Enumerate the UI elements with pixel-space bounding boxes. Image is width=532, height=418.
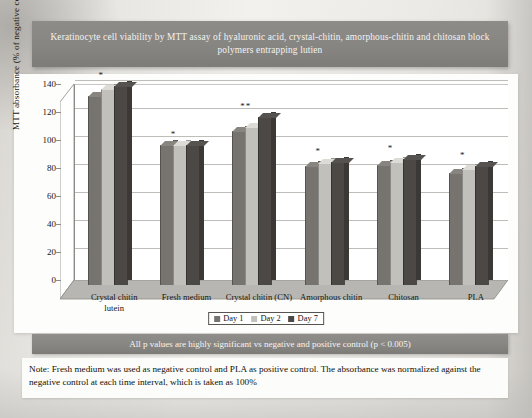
bar-side-face — [488, 161, 493, 280]
bar-day-1 — [377, 165, 390, 285]
y-tick-label: 120 — [43, 107, 57, 117]
bar-side-face — [199, 140, 204, 280]
bar-day-2 — [462, 169, 475, 285]
scanned-page: Keratinocyte cell viability by MTT assay… — [0, 0, 532, 418]
bar-day-7 — [475, 166, 488, 285]
bar-front-face — [232, 131, 246, 285]
bar-day-2 — [101, 89, 114, 285]
category-label: Chitosan — [388, 292, 419, 303]
bar-day-7 — [258, 117, 271, 285]
note-box: Note: Fresh medium was used as negative … — [22, 358, 508, 398]
legend-item: Day 1 — [214, 314, 243, 323]
bar-day-7 — [331, 162, 344, 285]
bar-front-face — [403, 159, 417, 285]
bar-day-2 — [390, 162, 403, 285]
plot-area: 020406080100120140 ******* — [60, 84, 508, 306]
bar-front-face — [101, 89, 115, 285]
bar-front-face — [305, 166, 319, 285]
y-tick-label: 140 — [43, 79, 57, 89]
bar-front-face — [390, 162, 404, 285]
bar-front-face — [462, 169, 476, 285]
bar-day-1 — [88, 96, 101, 285]
category-label-line: Crystal chitin (CN) — [226, 292, 292, 303]
bar-side-face — [344, 157, 349, 280]
bar-day-1 — [160, 145, 173, 285]
category-label: Crystal chitin (CN) — [226, 292, 292, 303]
bar-group: * — [88, 89, 142, 285]
category-label-line: lutein — [91, 303, 138, 314]
bar-front-face — [475, 166, 489, 285]
note-text: Note: Fresh medium was used as negative … — [29, 364, 481, 387]
bar-day-1 — [232, 131, 245, 285]
significance-marker: * — [460, 151, 466, 159]
y-tick-label: 100 — [43, 135, 57, 145]
bar-front-face — [331, 162, 345, 285]
bar-day-7 — [186, 145, 199, 285]
figure-title: Keratinocyte cell viability by MTT assay… — [32, 31, 508, 57]
significance-marker: ** — [240, 102, 251, 110]
category-label-line: Crystal chitin — [91, 292, 138, 303]
significance-marker: * — [98, 71, 104, 79]
bar-side-face — [271, 112, 276, 280]
significance-marker: * — [171, 130, 177, 138]
bar-top-face — [403, 155, 426, 160]
legend-swatch — [251, 316, 257, 322]
bars-layer: ******* — [60, 84, 508, 306]
bar-day-2 — [245, 127, 258, 285]
bar-day-2 — [318, 163, 331, 285]
bar-top-face — [258, 113, 281, 118]
bar-top-face — [475, 162, 498, 167]
bar-front-face — [114, 86, 128, 285]
p-value-text: All p values are highly significant vs n… — [129, 339, 411, 349]
chart-canvas: MTT absorbance (% of negative control) *… — [14, 74, 518, 333]
gridline — [75, 80, 508, 81]
bar-side-face — [127, 81, 132, 280]
category-label: Fresh medium — [162, 292, 211, 303]
legend-swatch — [214, 316, 220, 322]
bar-day-2 — [173, 145, 186, 285]
bar-top-face — [331, 158, 354, 163]
category-label-line: Amorphous chitin — [300, 292, 362, 303]
significance-marker: * — [315, 147, 321, 155]
legend-item: Day 7 — [289, 314, 318, 323]
legend-item: Day 2 — [251, 314, 280, 323]
series-legend: Day 1Day 2Day 7 — [208, 312, 324, 325]
category-label: PLA — [468, 292, 484, 303]
bar-group: * — [449, 89, 503, 285]
bar-front-face — [245, 127, 259, 285]
significance-marker: * — [388, 144, 394, 152]
bar-day-1 — [305, 166, 318, 285]
bar-day-7 — [403, 159, 416, 285]
bar-front-face — [318, 163, 332, 285]
p-value-banner: All p values are highly significant vs n… — [32, 334, 508, 354]
bar-front-face — [449, 173, 463, 285]
legend-label: Day 7 — [298, 314, 318, 323]
bar-day-7 — [114, 86, 127, 285]
bar-front-face — [377, 165, 391, 285]
category-label-line: Chitosan — [388, 292, 419, 303]
bar-front-face — [173, 145, 187, 285]
legend-label: Day 2 — [260, 314, 280, 323]
bar-group: * — [160, 89, 214, 285]
legend-label: Day 1 — [223, 314, 243, 323]
bar-front-face — [186, 145, 200, 285]
category-label: Amorphous chitin — [300, 292, 362, 303]
bar-top-face — [114, 82, 137, 87]
category-label-line: Fresh medium — [162, 292, 211, 303]
bar-group: * — [305, 89, 359, 285]
bar-group: * — [377, 89, 431, 285]
figure-title-banner: Keratinocyte cell viability by MTT assay… — [32, 21, 508, 67]
bar-front-face — [258, 117, 272, 285]
category-label: Crystal chitinlutein — [91, 292, 138, 313]
y-axis-title: MTT absorbance (% of negative control) — [11, 0, 21, 130]
category-label-line: PLA — [468, 292, 484, 303]
bar-top-face — [186, 141, 209, 146]
bar-front-face — [88, 96, 102, 285]
legend-swatch — [289, 316, 295, 322]
bar-front-face — [160, 145, 174, 285]
bar-day-1 — [449, 173, 462, 285]
bar-group: ** — [232, 89, 286, 285]
bar-side-face — [416, 154, 421, 280]
